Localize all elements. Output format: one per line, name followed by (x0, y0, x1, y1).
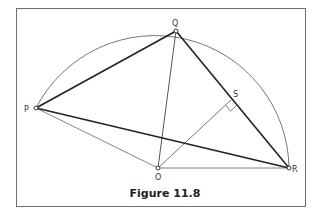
label-O: O (155, 173, 161, 182)
line-OS (158, 100, 231, 168)
label-S: S (233, 90, 238, 99)
label-P: P (24, 105, 29, 114)
line-OQ (158, 31, 176, 168)
line-PO (36, 108, 158, 168)
circle-arc (36, 36, 289, 168)
point-P (34, 106, 38, 110)
right-angle-marker (226, 105, 236, 111)
line-PQ (36, 31, 176, 108)
point-Q (174, 29, 178, 33)
point-O (156, 166, 160, 170)
label-R: R (292, 165, 298, 174)
point-R (287, 166, 291, 170)
label-Q: Q (172, 19, 178, 28)
figure-caption: Figure 11.8 (0, 187, 330, 200)
line-PR (36, 108, 289, 168)
line-QR (176, 31, 289, 168)
